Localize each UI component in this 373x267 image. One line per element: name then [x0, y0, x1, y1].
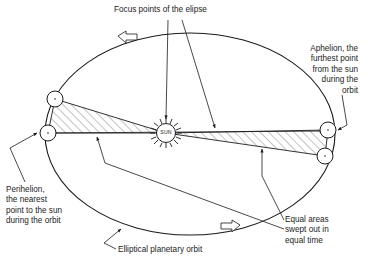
label-sun: SUN	[154, 129, 178, 135]
orbit-direction-arrow-bottom	[221, 220, 240, 232]
swept-area-left	[48, 99, 166, 133]
leader-perihelion	[10, 133, 37, 182]
label-perihelion: Perihelion, the nearest point to the sun…	[6, 185, 62, 227]
leader-equal-areas-left	[97, 137, 284, 229]
label-equal-areas: Equal areas swept out in equal time	[285, 215, 329, 246]
planet-circle-lower-right	[317, 148, 333, 164]
leader-equal-areas-right	[262, 149, 284, 220]
planet-circle-aphelion	[320, 122, 336, 138]
swept-area-right	[166, 130, 328, 156]
label-aphelion: Aphelion, the furthest point from the su…	[272, 44, 358, 96]
planet-circle-upper-left	[47, 91, 63, 107]
leader-focus-to-second-focus	[182, 20, 215, 128]
leader-aphelion	[338, 95, 347, 130]
diagram-canvas: Focus points of the elipse Aphelion, the…	[0, 0, 373, 267]
label-focus-points: Focus points of the elipse	[114, 5, 207, 15]
planet-circle-perihelion	[40, 125, 56, 141]
label-elliptical-orbit: Elliptical planetary orbit	[118, 245, 202, 255]
